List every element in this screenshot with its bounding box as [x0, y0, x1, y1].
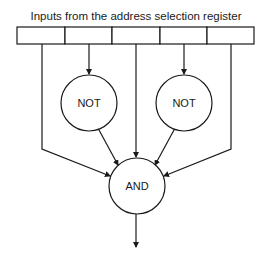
register-cell-3 — [112, 27, 160, 44]
connector-not-right-to-and — [155, 130, 174, 165]
and-gate: AND — [109, 158, 165, 214]
register-cell-5 — [207, 27, 254, 44]
and-gate-label: AND — [125, 180, 148, 192]
address-selection-register — [17, 27, 254, 44]
not-gate-right-label: NOT — [172, 97, 196, 109]
connector-not-left-to-and — [99, 130, 118, 165]
not-gate-left-label: NOT — [77, 97, 101, 109]
register-cell-1 — [17, 27, 65, 44]
register-cell-2 — [65, 27, 112, 44]
address-decoder-diagram: Inputs from the address selection regist… — [0, 0, 266, 262]
register-cell-4 — [160, 27, 207, 44]
not-gate-right: NOT — [156, 75, 212, 131]
diagram-title: Inputs from the address selection regist… — [31, 10, 242, 22]
not-gate-left: NOT — [61, 75, 117, 131]
